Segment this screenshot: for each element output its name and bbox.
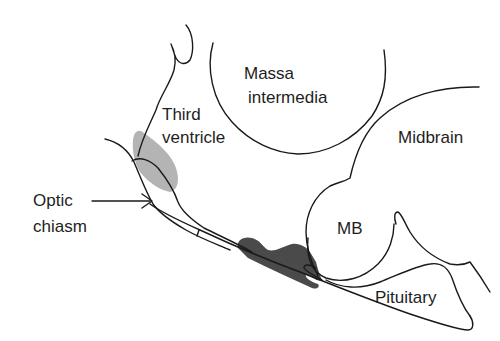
label-intermedia: intermedia bbox=[248, 88, 328, 107]
label-pituitary: Pituitary bbox=[375, 288, 437, 307]
label-chiasm: chiasm bbox=[33, 217, 87, 236]
label-massa: Massa bbox=[244, 64, 295, 83]
hypothalamus-diagram: Massa intermedia Third ventricle Midbrai… bbox=[0, 0, 500, 341]
posterior-outline bbox=[395, 212, 490, 292]
midbrain-outline bbox=[306, 87, 479, 276]
tick-mark bbox=[197, 230, 199, 236]
label-mammillary-body: MB bbox=[337, 219, 363, 238]
label-ventricle: ventricle bbox=[162, 128, 225, 147]
dark-shaded-region bbox=[238, 237, 322, 288]
label-third: Third bbox=[162, 105, 201, 124]
optic-chiasm-arrow bbox=[92, 194, 152, 208]
label-midbrain: Midbrain bbox=[398, 128, 463, 147]
label-optic: Optic bbox=[33, 191, 73, 210]
